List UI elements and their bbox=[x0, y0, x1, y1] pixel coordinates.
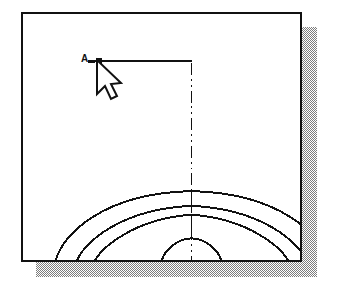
screenshot-root: A bbox=[0, 0, 338, 296]
annotation-label-layer: A bbox=[0, 0, 338, 296]
point-label-a: A bbox=[81, 54, 88, 64]
